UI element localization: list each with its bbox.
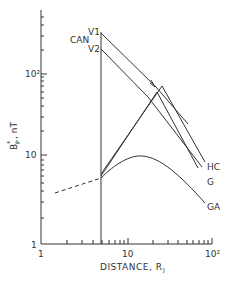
series-lines bbox=[55, 32, 205, 244]
arrowhead-icon bbox=[150, 80, 155, 87]
series-ga bbox=[101, 156, 205, 203]
label-hc: HC bbox=[207, 162, 220, 172]
svg-text:P: P bbox=[14, 140, 21, 144]
series-extrapolation bbox=[55, 178, 101, 193]
y-tick-100: 10² bbox=[25, 69, 40, 79]
y-tick-1: 1 bbox=[31, 240, 37, 250]
x-axis-title: DISTANCE, R bbox=[100, 262, 162, 272]
x-tick-100: 10² bbox=[205, 249, 220, 259]
series-v2 bbox=[101, 49, 202, 167]
label-g: G bbox=[207, 177, 214, 187]
label-ga: GA bbox=[207, 202, 221, 212]
x-ticks bbox=[67, 238, 212, 244]
label-v1: V1 bbox=[88, 27, 100, 37]
series-labels: V1 CAN V2 HC G GA bbox=[70, 27, 221, 212]
x-tick-1: 1 bbox=[38, 249, 44, 259]
axes bbox=[41, 10, 212, 244]
y-ticks bbox=[41, 17, 47, 218]
svg-text:*: * bbox=[6, 140, 14, 144]
series-hc bbox=[101, 86, 205, 174]
y-tick-10: 10 bbox=[25, 150, 37, 160]
x-axis-title-subscript: J bbox=[162, 266, 165, 274]
y-axis-title: B P * , nT bbox=[6, 122, 21, 150]
x-tick-10: 10 bbox=[122, 249, 134, 259]
svg-text:, nT: , nT bbox=[9, 122, 19, 139]
chart: 1 10 10² 1 10 10² DISTANCE, R J B P * , … bbox=[0, 0, 232, 287]
label-v2: V2 bbox=[88, 44, 100, 54]
label-can: CAN bbox=[70, 35, 89, 45]
tick-labels: 1 10 10² 1 10 10² bbox=[25, 69, 220, 259]
